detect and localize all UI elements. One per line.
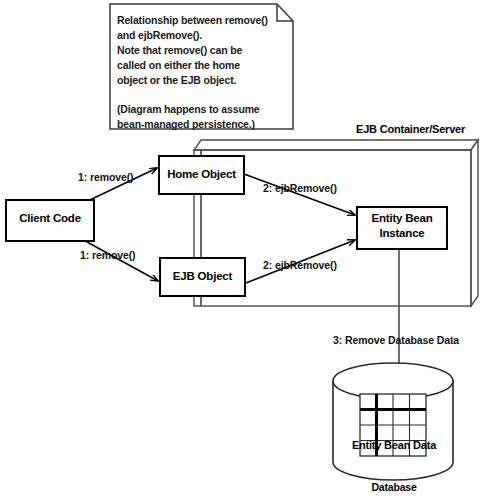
message-label-3-remove-database-data: 3: Remove Database Data (333, 334, 459, 347)
node-label-client-code: Client Code (6, 211, 94, 226)
message-label-2b-ejbremove: 2: ejbRemove() (263, 259, 337, 272)
node-label-entity-bean-instance: Entity BeanInstance (357, 211, 447, 241)
node-label-ejb-object: EJB Object (160, 269, 245, 284)
node-label-home-object: Home Object (159, 167, 244, 182)
database-caption: Database (334, 481, 454, 494)
note-text: Relationship between remove() and ejbRem… (117, 13, 287, 132)
message-label-1a-remove: 1: remove() (78, 171, 134, 184)
message-label-2a-ejbremove: 2: ejbRemove() (263, 182, 337, 195)
entity-bean-label-line1: Entity Bean (371, 212, 432, 224)
database-inner-label: Entity Bean Data (334, 438, 454, 452)
message-label-1b-remove: 1: remove() (80, 249, 136, 262)
diagram-canvas: Relationship between remove() and ejbRem… (0, 0, 483, 501)
entity-bean-label-line2: Instance (379, 227, 424, 239)
ejb-container-title: EJB Container/Server (356, 122, 465, 136)
